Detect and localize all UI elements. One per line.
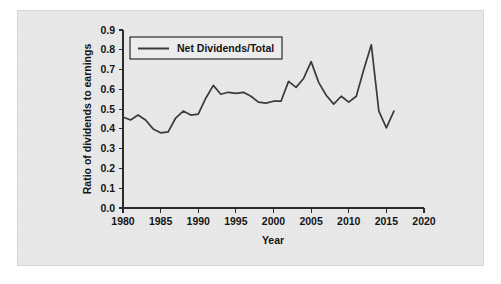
y-tick-label: 0.3 [100,142,115,154]
chart-panel: 0.00.10.20.30.40.50.60.70.80.9 198019851… [17,10,484,266]
y-tick-label: 0.7 [100,63,115,75]
x-tick-label: 2015 [375,215,399,227]
legend-label: Net Dividends/Total [177,42,274,54]
x-tick-label: 2010 [337,215,361,227]
y-tick-label: 0.6 [100,83,115,95]
y-tick-label: 0.0 [100,202,115,214]
y-tick-label: 0.5 [100,103,115,115]
y-tick-label-group: 0.00.10.20.30.40.50.60.70.80.9 [100,24,115,214]
y-axis-title: Ratio of dividends to earnings [81,44,93,195]
figure-root: 0.00.10.20.30.40.50.60.70.80.9 198019851… [0,0,501,284]
x-tick-label: 2020 [412,215,436,227]
x-tick-label: 1980 [111,215,135,227]
x-tick-label: 2000 [262,215,286,227]
y-tick-label: 0.8 [100,43,115,55]
line-chart: 0.00.10.20.30.40.50.60.70.80.9 198019851… [17,10,484,266]
y-axis: 0.00.10.20.30.40.50.60.70.80.9 [100,24,123,214]
x-tick-label: 1990 [187,215,211,227]
x-tick-label-group: 198019851990199520002005201020152020 [111,215,436,227]
y-tick-label: 0.1 [100,182,115,194]
x-tick-label: 2005 [299,215,323,227]
x-tick-group [123,208,424,213]
x-tick-label: 1985 [149,215,173,227]
x-axis-title: Year [262,234,284,246]
y-tick-label: 0.2 [100,162,115,174]
x-axis: 198019851990199520002005201020152020 [111,208,436,227]
y-tick-label: 0.9 [100,24,115,36]
x-tick-label: 1995 [224,215,248,227]
y-tick-label: 0.4 [100,122,115,134]
chart-legend: Net Dividends/Total [130,37,282,59]
